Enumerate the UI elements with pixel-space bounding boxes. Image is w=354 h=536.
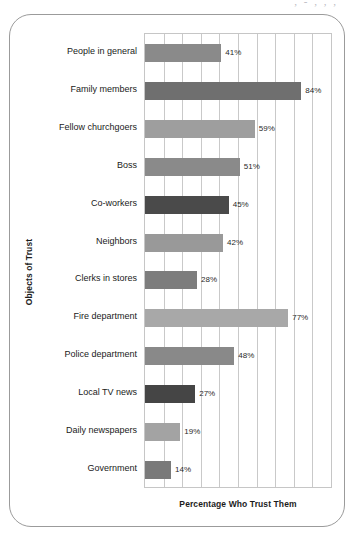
bar bbox=[145, 196, 229, 214]
bar-value-label: 77% bbox=[292, 314, 308, 322]
gridline bbox=[182, 34, 183, 487]
category-label: Daily newspapers bbox=[33, 426, 137, 435]
category-label: Government bbox=[33, 464, 137, 473]
category-label: Clerks in stores bbox=[33, 274, 137, 283]
bar bbox=[145, 158, 240, 176]
gridline bbox=[201, 34, 202, 487]
category-label: Police department bbox=[33, 350, 137, 359]
bar-value-label: 41% bbox=[225, 49, 241, 57]
bar-value-label: 27% bbox=[199, 390, 215, 398]
category-label: Fellow churchgoers bbox=[33, 123, 137, 132]
bar-value-label: 45% bbox=[233, 201, 249, 209]
bar bbox=[145, 423, 180, 441]
category-label: Boss bbox=[33, 161, 137, 170]
bar bbox=[145, 120, 255, 138]
bar-value-label: 19% bbox=[184, 428, 200, 436]
bar-value-label: 48% bbox=[238, 352, 254, 360]
gridline bbox=[275, 34, 276, 487]
category-label: Co-workers bbox=[33, 199, 137, 208]
gridline bbox=[219, 34, 220, 487]
bar-value-label: 84% bbox=[305, 87, 321, 95]
gridline bbox=[164, 34, 165, 487]
bar bbox=[145, 385, 195, 403]
category-label: Local TV news bbox=[33, 388, 137, 397]
gridline bbox=[257, 34, 258, 487]
category-label: Neighbors bbox=[33, 237, 137, 246]
plot-area: 41%84%59%51%45%42%28%77%48%27%19%14% bbox=[144, 33, 332, 488]
bar-value-label: 59% bbox=[259, 125, 275, 133]
bar-value-label: 14% bbox=[175, 466, 191, 474]
chart-frame: Objects of Trust People in generalFamily… bbox=[9, 14, 345, 527]
category-label: People in general bbox=[33, 47, 137, 56]
bar bbox=[145, 309, 288, 327]
category-label-column: People in generalFamily membersFellow ch… bbox=[34, 33, 144, 488]
bar bbox=[145, 347, 234, 365]
chart-area: People in generalFamily membersFellow ch… bbox=[34, 33, 334, 516]
bar-value-label: 51% bbox=[244, 163, 260, 171]
bar bbox=[145, 271, 197, 289]
category-label: Family members bbox=[33, 85, 137, 94]
category-label: Fire department bbox=[33, 312, 137, 321]
bar-value-label: 28% bbox=[201, 276, 217, 284]
plot-wrapper: People in generalFamily membersFellow ch… bbox=[34, 33, 336, 488]
gridline bbox=[312, 34, 313, 487]
bar-value-label: 42% bbox=[227, 239, 243, 247]
gridline bbox=[294, 34, 295, 487]
bar bbox=[145, 82, 301, 100]
bar bbox=[145, 234, 223, 252]
bar bbox=[145, 44, 221, 62]
top-edge-clipped-text: , - , , , bbox=[0, 0, 354, 7]
bar bbox=[145, 461, 171, 479]
gridline bbox=[238, 34, 239, 487]
chart-page: , - , , , Objects of Trust People in gen… bbox=[0, 0, 354, 536]
y-axis-title-text: Objects of Trust bbox=[24, 238, 34, 304]
x-axis-title: Percentage Who Trust Them bbox=[144, 499, 332, 509]
